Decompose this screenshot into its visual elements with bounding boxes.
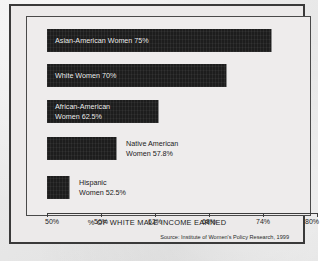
bar-label-line1: African-American bbox=[55, 102, 110, 111]
x-axis-tick bbox=[317, 213, 318, 217]
bar-label-line1: White Women 70% bbox=[55, 71, 116, 80]
x-axis-tick bbox=[155, 213, 156, 217]
x-axis-title: % OF WHITE MALE INCOME EARNED bbox=[11, 218, 303, 227]
chart-frame: Asian-American Women 75% White Women 70%… bbox=[26, 16, 311, 216]
bar-label-line2: Women 57.8% bbox=[126, 149, 178, 158]
bar-label-line2: Women 62.5% bbox=[55, 112, 110, 121]
plot-area: Asian-American Women 75% White Women 70%… bbox=[47, 29, 317, 213]
x-axis-tick bbox=[209, 213, 210, 217]
bar-hispanic-women bbox=[47, 176, 70, 199]
bar-label-white-women: White Women 70% bbox=[55, 64, 116, 87]
x-axis-tick bbox=[263, 213, 264, 217]
bar-label-line1: Asian-American Women 75% bbox=[55, 36, 149, 45]
bar-label-line1: Hispanic bbox=[79, 178, 126, 187]
x-axis-tick-label: 80% bbox=[305, 218, 318, 225]
bar-label-african-american-women: African-American Women 62.5% bbox=[55, 100, 110, 123]
bar-label-native-american-women: Native American Women 57.8% bbox=[126, 137, 178, 160]
bar-label-hispanic-women: Hispanic Women 52.5% bbox=[79, 176, 126, 199]
bar-native-american-women bbox=[47, 137, 117, 160]
scanned-page: Asian-American Women 75% White Women 70%… bbox=[0, 0, 318, 261]
bar-label-line1: Native American bbox=[126, 139, 178, 148]
source-note: Source: Institute of Women's Policy Rese… bbox=[160, 234, 289, 240]
x-axis-tick bbox=[101, 213, 102, 217]
x-axis-tick bbox=[47, 213, 48, 217]
x-axis-line bbox=[47, 213, 318, 214]
outer-frame: Asian-American Women 75% White Women 70%… bbox=[9, 4, 305, 244]
bar-label-asian-american-women: Asian-American Women 75% bbox=[55, 29, 149, 52]
bar-label-line2: Women 52.5% bbox=[79, 188, 126, 197]
